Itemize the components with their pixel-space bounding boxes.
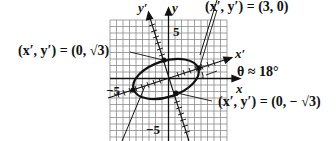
- rotated-axes: [108, 12, 232, 141]
- tick-neg5-y-label: −5: [146, 122, 160, 137]
- y-axis-arrow-icon: [166, 8, 172, 15]
- key-points: [130, 57, 201, 95]
- y-axis-label: y: [170, 0, 178, 15]
- x-prime-label: x′: [234, 46, 246, 61]
- tick-neg5-x-label: −5: [106, 83, 120, 98]
- y-prime-label: y′: [136, 0, 148, 15]
- rotated-ellipse-diagram: 5 −5 −5 x y x′ y′ θ ≈ 18° (x′, y′) = (0,…: [0, 0, 336, 141]
- tick-5-label: 5: [173, 24, 180, 39]
- annotation-bottom-point: (x′, y′) = (0, − √3): [218, 94, 321, 110]
- x-prime-arrow-icon: [224, 57, 233, 63]
- angle-arc: [202, 72, 203, 79]
- point-left: [130, 87, 135, 92]
- point-right: [196, 65, 201, 70]
- annotation-right-point: (x′, y′) = (3, 0): [205, 0, 289, 15]
- annotation-top-point: (x′, y′) = (0, √3): [18, 43, 110, 59]
- angle-label: θ ≈ 18°: [237, 64, 279, 79]
